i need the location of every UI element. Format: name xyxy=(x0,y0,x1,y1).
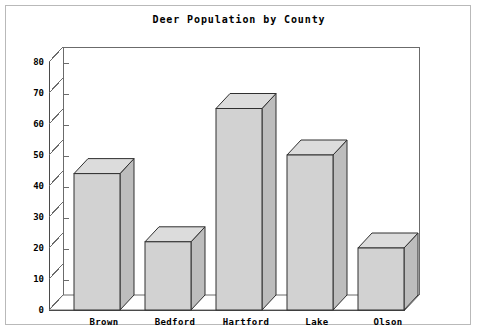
x-axis-labels: Brown Bedford Hartford Lake Olson xyxy=(89,317,402,327)
y-axis-label-80: 80 xyxy=(33,57,44,67)
x-axis-label-lake: Lake xyxy=(305,317,328,327)
bar-chart-plot: 0 10 20 30 40 50 60 70 80 xyxy=(0,0,478,334)
y-axis-label-50: 50 xyxy=(33,150,44,160)
y-tick-60 xyxy=(49,109,63,124)
bar-brown-front xyxy=(74,174,120,310)
x-axis-label-bedford: Bedford xyxy=(155,317,196,327)
bar-brown[interactable] xyxy=(74,159,134,310)
y-tick-70 xyxy=(49,78,63,93)
x-axis-label-brown: Brown xyxy=(89,317,118,327)
y-tick-40 xyxy=(49,171,63,186)
bar-hartford-side xyxy=(262,94,276,311)
y-tick-30 xyxy=(49,202,63,217)
bar-hartford-front xyxy=(216,109,262,311)
y-axis-label-30: 30 xyxy=(33,212,44,222)
bar-olson-front xyxy=(358,248,404,310)
bar-lake-front xyxy=(287,155,333,310)
bar-bedford-front xyxy=(145,242,191,310)
y-axis-label-70: 70 xyxy=(33,88,44,98)
y-tick-20 xyxy=(49,233,63,248)
bar-lake[interactable] xyxy=(287,140,347,310)
x-axis-label-olson: Olson xyxy=(373,317,402,327)
y-axis-label-60: 60 xyxy=(33,119,44,129)
x-axis-label-hartford: Hartford xyxy=(223,317,270,327)
y-axis-label-0: 0 xyxy=(39,305,44,315)
y-axis-label-20: 20 xyxy=(33,243,44,253)
bar-bedford[interactable] xyxy=(145,227,205,310)
y-tick-10 xyxy=(49,264,63,279)
y-axis-label-40: 40 xyxy=(33,181,44,191)
y-tick-50 xyxy=(49,140,63,155)
bar-brown-side xyxy=(120,159,134,310)
bar-olson[interactable] xyxy=(358,233,418,310)
bar-hartford[interactable] xyxy=(216,94,276,311)
bar-lake-side xyxy=(333,140,347,310)
y-tick-80 xyxy=(49,47,63,62)
chart-page: Deer Population by County xyxy=(0,0,478,334)
y-axis-label-10: 10 xyxy=(33,274,44,284)
